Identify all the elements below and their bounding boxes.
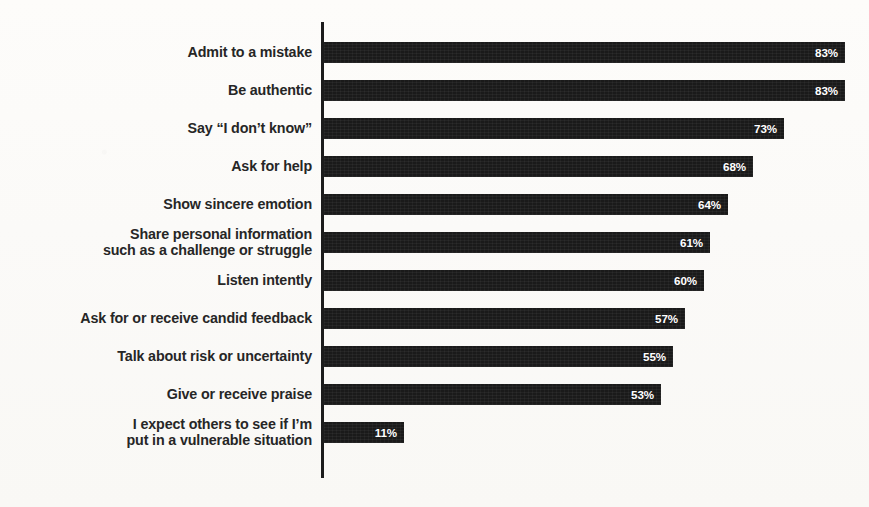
bar-row: Listen intently60% [0,261,869,299]
bar-value-label: 83% [815,85,838,97]
bar: 57% [324,308,685,329]
bar: 73% [324,118,784,139]
category-label: Listen intently [12,261,312,299]
bar-value-label: 68% [723,161,746,173]
bar-track: 57% [324,308,685,329]
bar-value-label: 83% [815,47,838,59]
bar-row: I expect others to see if I’mput in a vu… [0,413,869,451]
bar-track: 73% [324,118,784,139]
bar-track: 11% [324,422,404,443]
category-label-line1: Admit to a mistake [188,44,312,61]
category-label: Give or receive praise [12,375,312,413]
category-label: Say “I don’t know” [12,109,312,147]
bar-track: 83% [324,80,845,101]
bar-track: 53% [324,384,661,405]
bar-track: 64% [324,194,728,215]
bar-track: 83% [324,42,845,63]
category-label-line1: Share personal information [130,226,312,243]
category-label: Show sincere emotion [12,185,312,223]
plot-area: Admit to a mistake83%Be authentic83%Say … [0,0,869,507]
category-label-line1: Talk about risk or uncertainty [117,348,312,365]
category-label-line1: Say “I don’t know” [188,120,312,137]
category-label: I expect others to see if I’mput in a vu… [12,413,312,451]
category-label: Share personal informationsuch as a chal… [12,223,312,261]
category-label: Ask for help [12,147,312,185]
bar: 64% [324,194,728,215]
category-label-line1: Be authentic [228,82,312,99]
bar: 61% [324,232,710,253]
bar-value-label: 11% [375,427,397,439]
bar-value-label: 61% [680,237,703,249]
bar-value-label: 64% [698,199,721,211]
bar-row: Show sincere emotion64% [0,185,869,223]
category-label-line2: put in a vulnerable situation [126,432,312,449]
bar: 68% [324,156,753,177]
bar: 11% [324,422,404,443]
bar-track: 61% [324,232,710,253]
bar-row: Ask for or receive candid feedback57% [0,299,869,337]
bar-chart: Admit to a mistake83%Be authentic83%Say … [0,0,869,507]
bar: 83% [324,80,845,101]
bar-value-label: 60% [674,275,697,287]
category-label-line1: I expect others to see if I’m [133,416,312,433]
category-label-line1: Show sincere emotion [163,196,312,213]
bar-value-label: 55% [643,351,666,363]
bar-row: Ask for help68% [0,147,869,185]
bar: 53% [324,384,661,405]
bar-row: Share personal informationsuch as a chal… [0,223,869,261]
bar-row: Say “I don’t know”73% [0,109,869,147]
bar-value-label: 57% [655,313,678,325]
bar-row: Give or receive praise53% [0,375,869,413]
bar: 55% [324,346,673,367]
bar-row: Be authentic83% [0,71,869,109]
category-label: Ask for or receive candid feedback [12,299,312,337]
bar-track: 55% [324,346,673,367]
category-label-line1: Give or receive praise [167,386,312,403]
category-label-line1: Ask for or receive candid feedback [80,310,312,327]
bar: 60% [324,270,704,291]
category-label: Be authentic [12,71,312,109]
category-label: Talk about risk or uncertainty [12,337,312,375]
bar-value-label: 53% [631,389,654,401]
bar: 83% [324,42,845,63]
bar-track: 68% [324,156,753,177]
bar-row: Admit to a mistake83% [0,33,869,71]
bar-track: 60% [324,270,704,291]
category-label-line1: Listen intently [217,272,312,289]
category-label-line1: Ask for help [231,158,312,175]
bar-row: Talk about risk or uncertainty55% [0,337,869,375]
category-label: Admit to a mistake [12,33,312,71]
category-label-line2: such as a challenge or struggle [103,242,312,259]
bar-value-label: 73% [754,123,777,135]
